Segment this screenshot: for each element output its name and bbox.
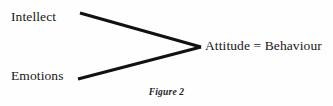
- figure-container: Intellect Emotions Attitude = Behaviour …: [0, 0, 333, 106]
- connector-line-emotions: [78, 47, 201, 79]
- figure-caption: Figure 2: [0, 87, 333, 97]
- connector-line-intellect: [80, 13, 201, 47]
